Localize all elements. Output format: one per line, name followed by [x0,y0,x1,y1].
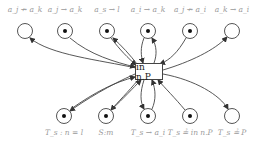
arc-b2-to-t [112,80,141,109]
token-icon [104,114,108,118]
place-bottom-4 [182,108,198,124]
place-label-bottom-4: T_s ≟ in n.P [167,129,212,137]
token-icon [146,114,150,118]
place-bottom-5-empty [224,108,240,124]
token-icon [146,29,150,33]
place-label-bottom-1: T_s : n = l [45,129,83,137]
place-label-bottom-3: T_s → a_i [131,129,165,137]
place-bottom-1 [56,108,72,124]
place-top-1-empty [17,23,33,39]
arc-t-to-p3 [113,38,137,64]
token-icon [105,29,109,33]
token-icon [188,114,192,118]
place-bottom-3 [140,108,156,124]
arc-b3-to-t-right [152,80,155,109]
place-label-top-2: a_j → a_k [48,6,82,14]
place-label-top-1: a_j ↛ a_k [8,6,42,14]
arc-b1-to-t [71,77,135,109]
place-label-top-5: a_j ↛ a_i [174,6,206,14]
place-label-top-4: a_i → a_k [131,6,165,14]
arc-t-to-b5 [163,74,228,109]
place-top-3 [99,23,115,39]
place-top-6-empty [224,23,240,39]
place-bottom-2 [98,108,114,124]
arc-t-to-p1 [30,38,136,68]
transition-box: in n.P [135,63,163,80]
place-top-4 [140,23,156,39]
place-label-bottom-5: T_s ≟ P [218,129,246,137]
place-label-top-3: a_s → l [94,6,120,14]
place-top-2 [57,23,73,39]
token-icon [62,114,66,118]
arc-p5-to-t [160,38,186,64]
place-top-5 [182,23,198,39]
arc-b4-to-t [158,80,185,110]
place-label-top-6: a_k → a_i [215,6,249,14]
petri-net-arcs [0,0,258,142]
arc-p2-to-t [70,38,135,67]
token-icon [188,29,192,33]
arc-t-to-p4-right [152,38,156,63]
arc-t-to-p6 [163,37,227,70]
arc-t-to-b3-left [141,80,144,109]
place-label-bottom-2: S:m [99,129,114,137]
arc-p4-to-t-left [141,38,144,63]
arc-t-to-b2 [111,80,138,110]
token-icon [63,29,67,33]
